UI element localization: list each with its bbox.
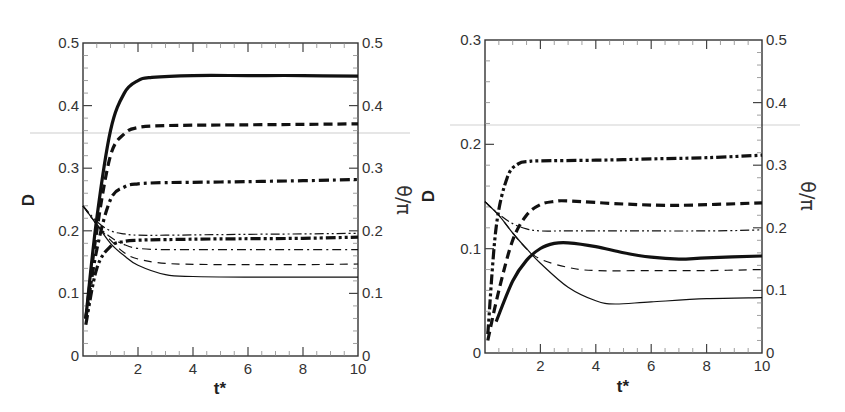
y-tick-label: 0: [71, 347, 79, 364]
right-chart-panel: 24681000.10.20.300.10.20.30.40.5t*Dθ/π: [419, 31, 819, 396]
series-line: [86, 237, 358, 325]
x-tick-label: 4: [592, 357, 600, 374]
series-line: [488, 155, 762, 334]
y-tick-label: 0.2: [460, 135, 481, 152]
y-axis-title: D: [19, 194, 38, 206]
plot-frame: [83, 43, 358, 356]
y-axis-title: D: [419, 190, 438, 202]
y-right-tick-label: 0.2: [362, 222, 383, 239]
y-right-tick-label: 0.2: [766, 219, 787, 236]
x-tick-label: 8: [702, 357, 710, 374]
y-tick-label: 0.4: [58, 97, 79, 114]
y-right-tick-label: 0.4: [362, 97, 383, 114]
y-right-tick-label: 0.1: [362, 284, 383, 301]
x-axis-title: t*: [214, 379, 227, 398]
x-tick-label: 8: [299, 360, 307, 377]
y-tick-label: 0.2: [58, 222, 79, 239]
series-line: [86, 75, 358, 318]
y-right-tick-label: 0.5: [362, 34, 383, 51]
left-chart-panel: 24681000.10.20.30.40.500.10.20.30.40.5t*…: [19, 34, 415, 398]
y-right-tick-label: 0: [766, 344, 774, 361]
y-right-tick-label: 0.1: [766, 281, 787, 298]
x-tick-label: 2: [536, 357, 544, 374]
y-tick-label: 0.5: [58, 34, 79, 51]
series-line: [83, 206, 358, 250]
y-tick-label: 0: [473, 344, 481, 361]
y-right-tick-label: 0: [362, 347, 370, 364]
x-axis-title: t*: [617, 377, 630, 396]
series-line: [83, 206, 358, 277]
plot-frame: [485, 40, 762, 353]
x-tick-label: 6: [244, 360, 252, 377]
series-line: [86, 180, 358, 319]
figure: 24681000.10.20.30.40.500.10.20.30.40.5t*…: [0, 0, 845, 412]
x-tick-label: 2: [134, 360, 142, 377]
y-tick-label: 0.1: [460, 240, 481, 257]
y-right-tick-label: 0.5: [766, 31, 787, 48]
y-right-tick-label: 0.3: [766, 156, 787, 173]
y-right-axis-title: θ/π: [797, 181, 819, 210]
series-line: [488, 201, 762, 341]
y-tick-label: 0.3: [58, 159, 79, 176]
series-line: [496, 243, 762, 322]
x-tick-label: 4: [189, 360, 197, 377]
y-right-tick-label: 0.4: [766, 94, 787, 111]
y-right-axis-title: θ/π: [393, 185, 415, 214]
series-line: [86, 124, 358, 319]
y-right-tick-label: 0.3: [362, 159, 383, 176]
y-tick-label: 0.1: [58, 284, 79, 301]
series-line: [83, 206, 358, 236]
y-tick-label: 0.3: [460, 31, 481, 48]
x-tick-label: 6: [647, 357, 655, 374]
